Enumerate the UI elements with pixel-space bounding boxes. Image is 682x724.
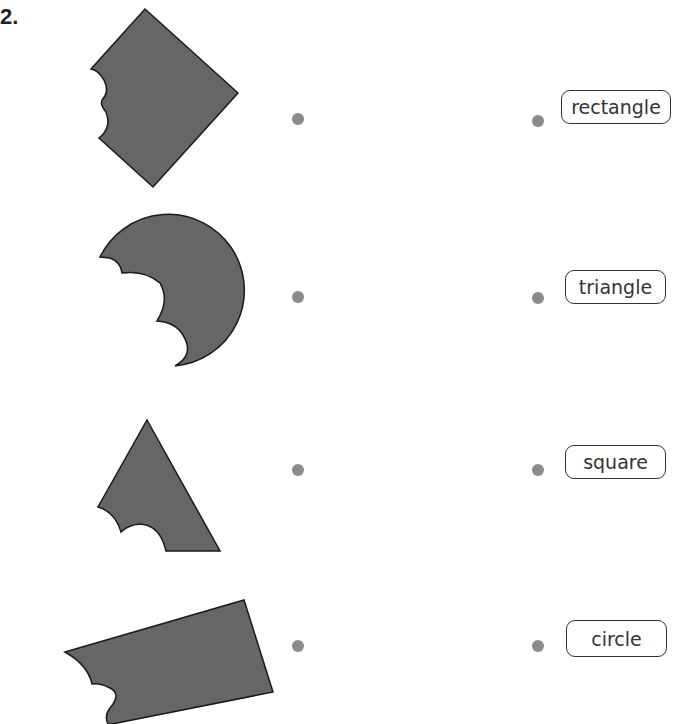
shape-square (91, 9, 238, 187)
match-dot-shape-3[interactable] (292, 464, 304, 476)
shape-rectangle (65, 600, 273, 724)
match-dot-label-3[interactable] (532, 464, 544, 476)
match-dot-label-2[interactable] (532, 292, 544, 304)
match-dot-label-1[interactable] (532, 115, 544, 127)
label-circle[interactable]: circle (566, 620, 667, 657)
shape-circle (100, 214, 244, 366)
label-rectangle[interactable]: rectangle (561, 90, 671, 124)
shape-triangle (98, 420, 220, 551)
match-dot-shape-1[interactable] (292, 113, 304, 125)
label-square[interactable]: square (565, 445, 666, 479)
match-dot-shape-4[interactable] (292, 640, 304, 652)
match-dot-label-4[interactable] (532, 640, 544, 652)
label-triangle[interactable]: triangle (565, 270, 666, 304)
match-dot-shape-2[interactable] (292, 291, 304, 303)
